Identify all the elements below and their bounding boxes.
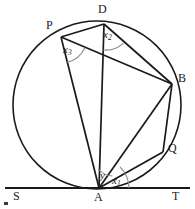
angle-label-y: y (100, 170, 105, 181)
point-label-a: A (94, 191, 103, 203)
point-label-q: Q (168, 142, 177, 154)
main-circle (13, 21, 181, 189)
angle-label-x2-sub: 2 (108, 33, 112, 42)
angle-label-x1: x1 (112, 175, 121, 186)
angle-label-x3-sub: 3 (68, 48, 72, 57)
chord-pa (61, 37, 99, 188)
chord-ab (99, 84, 172, 188)
geometry-figure: P D B Q A S T x1 x2 x3 y (0, 0, 195, 209)
chord-da (99, 24, 104, 188)
point-label-p: P (46, 19, 53, 31)
angle-label-x3: x3 (63, 44, 72, 55)
angle-label-x1-sub: 1 (117, 179, 121, 188)
angle-arc-x2 (103, 43, 123, 50)
chord-db (104, 24, 172, 84)
point-label-t: T (172, 190, 179, 202)
angle-label-y-base: y (100, 169, 105, 181)
geometry-canvas (0, 0, 195, 209)
point-label-b: B (178, 72, 186, 84)
point-label-s: S (13, 190, 20, 202)
angle-label-x2: x2 (103, 29, 112, 40)
point-label-d: D (98, 3, 107, 15)
scan-artifact-mark (4, 202, 8, 205)
